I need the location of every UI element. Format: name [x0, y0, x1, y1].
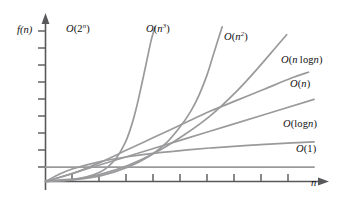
curve-label-constant: O(1) [296, 144, 316, 155]
x-axis-arrowhead [318, 178, 329, 186]
x-axis-label: n [311, 178, 316, 189]
curve-o-2-n- [46, 27, 156, 181]
y-axis-ticks [38, 31, 46, 167]
y-axis-label: f(n) [17, 25, 32, 36]
y-axis-arrowhead [42, 13, 50, 24]
curve-label-exponential: O(2n) [66, 24, 90, 35]
curve-label-logarithmic: O(logn) [283, 119, 317, 130]
curve-label-quadratic: O(n2) [224, 32, 248, 43]
curve-o-n- [46, 99, 315, 181]
big-o-complexity-chart: f(n) n O(2n) O(n3) O(n2) O(n logn) O(n) … [0, 0, 346, 203]
curve-label-linear: O(n) [290, 79, 310, 90]
curve-o-n-2- [46, 35, 287, 182]
curve-o-n-3- [46, 27, 223, 182]
curve-label-linearithmic: O(n logn) [281, 55, 323, 66]
curve-label-cubic: O(n3) [146, 24, 170, 35]
chart-plot-area [0, 0, 346, 203]
complexity-curves [46, 27, 315, 182]
